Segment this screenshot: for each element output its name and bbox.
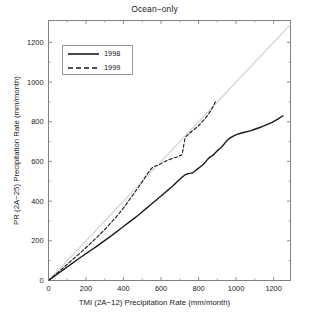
legend-label-1999: 1999: [104, 63, 120, 72]
x-axis-title: TMI (2A−12) Precipitation Rate (mm/month…: [0, 298, 309, 307]
legend-label-1998: 1998: [104, 49, 120, 58]
y-tick-label: 1000: [4, 78, 44, 87]
y-tick-label: 200: [4, 236, 44, 245]
legend-entry-1999: 1999: [63, 61, 134, 75]
y-tick-label: 0: [4, 276, 44, 285]
x-tick-label: 1000: [216, 284, 256, 293]
plot-area: [0, 0, 309, 314]
y-tick-label: 400: [4, 197, 44, 206]
x-tick-label: 200: [66, 284, 106, 293]
x-tick-label: 800: [179, 284, 219, 293]
y-tick-label: 1200: [4, 38, 44, 47]
chart-legend: 1998 1999: [62, 45, 133, 75]
chart-figure: Ocean−only 1998 1999 TMI (2A−12) Precipi…: [0, 0, 309, 314]
x-tick-label: 400: [104, 284, 144, 293]
legend-line-dashed-icon: [68, 67, 99, 69]
legend-line-solid-icon: [68, 53, 99, 55]
x-tick-label: 600: [141, 284, 181, 293]
x-tick-label: 1200: [254, 284, 294, 293]
y-tick-label: 800: [4, 117, 44, 126]
y-tick-label: 600: [4, 157, 44, 166]
legend-entry-1998: 1998: [63, 47, 134, 61]
